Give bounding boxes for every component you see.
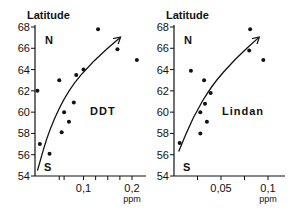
y-tick-label: 66 [157, 42, 169, 54]
data-point [209, 91, 213, 95]
y-tick-label: 64 [18, 64, 30, 76]
data-point [96, 27, 100, 31]
data-point [202, 78, 206, 82]
y-axis-label: Latitude [27, 9, 70, 21]
data-point [74, 73, 78, 77]
trend-arrow [179, 38, 259, 152]
data-point [60, 130, 64, 134]
y-tick-label: 68 [157, 21, 169, 33]
y-tick-label: 62 [157, 85, 169, 97]
x-axis-unit-label: ppm [259, 194, 277, 204]
y-axis-label: Latitude [166, 9, 209, 21]
y-tick-label: 56 [18, 149, 30, 161]
data-point [57, 78, 61, 82]
data-point [135, 58, 139, 62]
data-point [247, 48, 251, 52]
y-tick-label: 66 [18, 42, 30, 54]
ddt-chart: Latitude54565860626466680,10,2ppmNSDDT [18, 9, 146, 204]
x-tick-label: 0,05 [210, 182, 231, 194]
data-point [62, 110, 66, 114]
chart-canvas: Latitude54565860626466680,10,2ppmNSDDT L… [0, 0, 301, 214]
south-label: S [183, 161, 190, 173]
y-tick-label: 64 [157, 64, 169, 76]
series-label: DDT [90, 105, 116, 117]
north-label: N [45, 34, 53, 46]
data-point [189, 69, 193, 73]
data-point [203, 102, 207, 106]
lindan-chart: Latitude54565860626466680,050,1ppmNSLind… [157, 9, 285, 204]
y-tick-label: 54 [157, 170, 169, 182]
data-point [72, 101, 76, 105]
x-axis-unit-label: ppm [123, 194, 141, 204]
data-point [115, 47, 119, 51]
y-tick-label: 68 [18, 21, 30, 33]
y-tick-label: 60 [18, 106, 30, 118]
data-point [205, 120, 209, 124]
data-point [248, 27, 252, 31]
data-point [261, 58, 265, 62]
south-label: S [44, 161, 51, 173]
y-tick-label: 54 [18, 170, 30, 182]
y-tick-label: 62 [18, 85, 30, 97]
data-point [38, 142, 42, 146]
chart-figure: Latitude54565860626466680,10,2ppmNSDDT L… [0, 0, 301, 214]
x-tick-label: 0,1 [260, 182, 275, 194]
y-tick-label: 58 [18, 127, 30, 139]
data-point [198, 110, 202, 114]
x-tick-label: 0,1 [76, 182, 91, 194]
data-point [198, 131, 202, 135]
y-tick-label: 58 [157, 127, 169, 139]
y-tick-label: 60 [157, 106, 169, 118]
data-point [48, 152, 52, 156]
series-label: Lindan [222, 105, 264, 117]
x-tick-label: 0,2 [124, 182, 139, 194]
data-point [35, 89, 39, 93]
north-label: N [184, 34, 192, 46]
data-point [67, 120, 71, 124]
y-tick-label: 56 [157, 149, 169, 161]
